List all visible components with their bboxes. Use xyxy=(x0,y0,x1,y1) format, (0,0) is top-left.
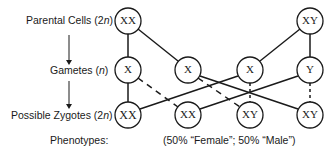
node-zygote-2: XX xyxy=(175,108,201,120)
node-parent-male: XY xyxy=(297,14,323,26)
node-zygote-4: XY xyxy=(297,108,323,120)
node-gamete-2: X xyxy=(175,63,201,75)
node-zygote-3: XY xyxy=(237,108,263,120)
node-zygote-1: XX xyxy=(115,108,141,123)
row-label-gametes: Gametes (n) xyxy=(50,64,108,76)
phenotype-result: (50% “Female”; 50% “Male”) xyxy=(163,134,295,146)
node-gamete-1: X xyxy=(115,63,141,75)
node-gamete-4: Y xyxy=(297,63,323,75)
node-gamete-3: X xyxy=(237,63,263,75)
node-parent-female: XX xyxy=(115,14,141,26)
row-label-parental: Parental Cells (2n) xyxy=(26,14,113,26)
row-label-phenotypes: Phenotypes: xyxy=(50,134,108,146)
row-label-zygotes: Possible Zygotes (2n) xyxy=(11,109,113,121)
